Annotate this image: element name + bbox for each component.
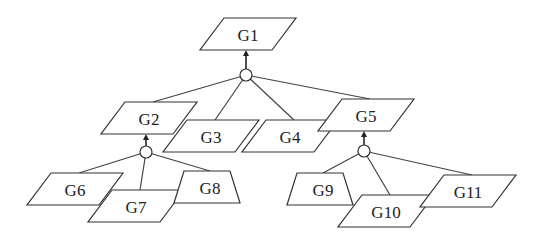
node-g10: G10 [338,195,434,227]
node-g9: G9 [287,173,353,205]
edge-g5-g10 [364,151,390,195]
edge-g2-g6 [79,152,146,173]
node-label: G10 [371,203,400,222]
goal-tree-diagram: G1G2G3G4G5G6G7G8G9G10G11 [0,0,534,244]
arrowhead-icon [361,131,367,137]
edge-g2-g8 [146,152,210,171]
edge-g1-g3 [215,75,246,120]
node-g11: G11 [420,175,516,207]
node-label: G7 [126,198,147,217]
edge-g1-g2 [153,75,246,102]
edge-g5-g11 [364,151,472,175]
diagram-svg: G1G2G3G4G5G6G7G8G9G10G11 [0,0,534,244]
node-label: G9 [313,181,334,200]
node-label: G8 [200,179,221,198]
node-g5: G5 [318,99,414,131]
junction-j3 [358,145,370,157]
node-label: G11 [454,183,483,202]
node-label: G6 [65,181,86,200]
junction-j2 [140,146,152,158]
node-label: G1 [238,26,259,45]
node-label: G2 [139,110,160,129]
junction-j1 [240,69,252,81]
node-label: G3 [201,128,222,147]
node-g8: G8 [174,171,240,203]
edge-g5-g9 [323,151,364,173]
nodes: G1G2G3G4G5G6G7G8G9G10G11 [27,18,516,227]
node-label: G4 [280,128,301,147]
arrowhead-icon [243,50,249,56]
edge-g1-g5 [246,75,370,99]
node-label: G5 [356,107,377,126]
node-g1: G1 [200,18,296,50]
edge-g1-g4 [246,75,294,120]
arrowhead-icon [143,134,149,140]
